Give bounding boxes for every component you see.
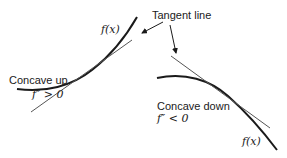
left-curve-label: f(x) (101, 24, 120, 35)
callout-arrow-right (170, 25, 176, 53)
concave-up-label: Concave up (9, 75, 68, 86)
right-curve-label: f(x) (242, 136, 261, 147)
concave-down-condition: f″ < 0 (157, 113, 188, 124)
tangent-line-label: Tangent line (152, 10, 211, 21)
concavity-diagram: Tangent line f(x) Concave up f″ > 0 Conc… (0, 0, 287, 158)
callout-arrow-left (142, 22, 163, 33)
concave-down-label: Concave down (157, 101, 230, 112)
concave-up-condition: f″ > 0 (32, 89, 63, 100)
